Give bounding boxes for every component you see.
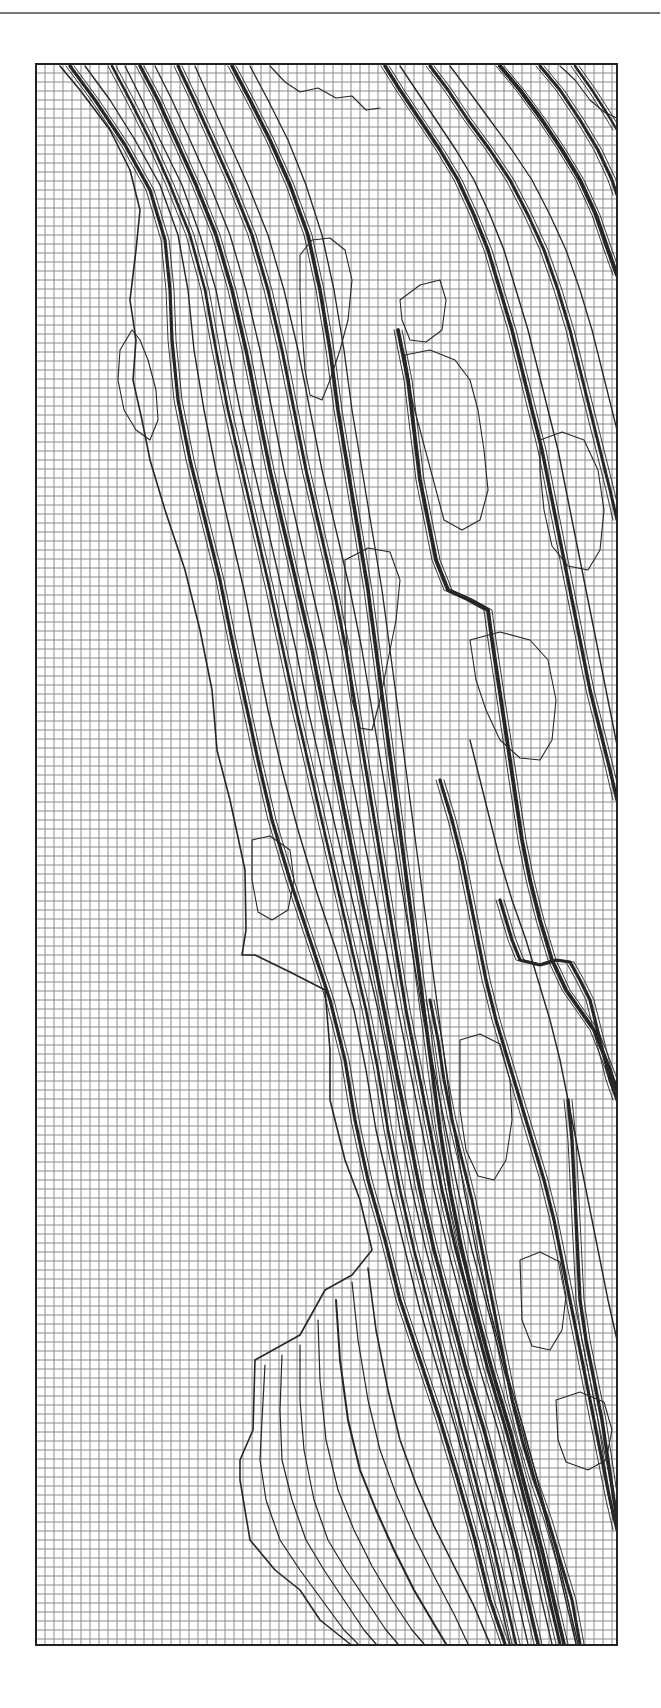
contour-mid-thick-channel-companion (402, 330, 621, 1090)
contour-lower-left-fan-2 (280, 1355, 376, 1644)
contour-band-3 (112, 66, 516, 1644)
contour-left-band-thick-1-companion (74, 66, 509, 1644)
contour-map-figure (0, 0, 661, 1708)
contour-plateau-outline-b (405, 350, 488, 530)
contour-band-5-thick (140, 66, 538, 1644)
contour-mid-thick-channel (398, 330, 617, 1090)
map-frame-border (36, 64, 617, 1645)
contour-upper-right-band-4 (450, 66, 617, 430)
map-grid (36, 64, 617, 1645)
contour-band-3-companion (108, 66, 512, 1644)
contour-upper-right-band-7-companion (571, 66, 613, 130)
contour-band-5-thick-companion (136, 66, 534, 1644)
contour-lower-channel-thick-companion (434, 1000, 584, 1644)
contour-lower-right-channel-companion (572, 1100, 621, 1520)
contour-lower-left-fan-5 (336, 1300, 446, 1644)
